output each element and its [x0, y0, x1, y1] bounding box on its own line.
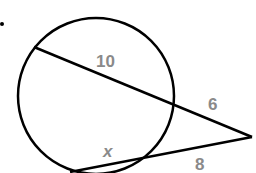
label-x: x: [102, 142, 114, 161]
secant-top: [34, 47, 252, 137]
bullet-dot: [0, 22, 4, 26]
label-6: 6: [208, 95, 217, 114]
secant-bottom: [70, 137, 252, 172]
secant-diagram: 10 6 x 8: [0, 0, 256, 173]
label-8: 8: [195, 155, 204, 173]
label-10: 10: [96, 52, 115, 71]
